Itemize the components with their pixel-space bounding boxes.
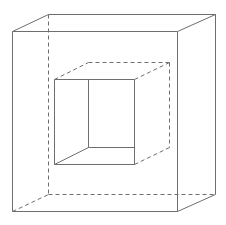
outer-bottom-left-depth-edge-hidden xyxy=(13,195,49,212)
nested-cubes-diagram xyxy=(0,0,226,225)
outer-bottom-right-depth-edge xyxy=(178,195,216,212)
outer-cube xyxy=(13,15,216,212)
outer-top-right-depth-edge xyxy=(178,15,216,32)
inner-bottom-right-depth-edge-hidden xyxy=(135,148,170,165)
inner-top-right-depth-edge-hidden xyxy=(135,63,170,80)
edges-layer xyxy=(13,15,216,212)
inner-bottom-left-depth-edge xyxy=(55,148,89,165)
outer-top-left-depth-edge xyxy=(13,15,49,32)
inner-cube xyxy=(55,63,170,165)
inner-top-left-depth-edge-hidden xyxy=(55,63,89,80)
